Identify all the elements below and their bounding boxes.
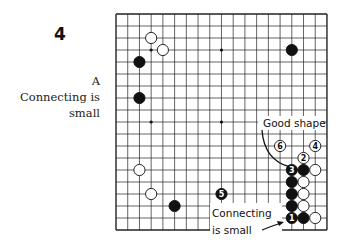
white-stone [298,188,309,199]
white-stone [310,212,321,223]
move-5-stone: 5 [216,188,227,199]
black-stone [134,56,145,67]
black-stone [286,176,297,187]
black-stone [286,44,297,55]
go-board: Good shape Connecting is small 123456 [0,0,345,245]
move-1-stone: 1 [286,212,297,223]
black-stone [134,92,145,103]
white-stone [134,164,145,175]
black-stone [298,164,309,175]
black-stone [298,212,309,223]
move-number: 1 [289,214,295,223]
white-stone [157,44,168,55]
white-stone [146,188,157,199]
good-shape-label: Good shape [263,117,326,129]
move-2-stone: 2 [298,152,309,163]
connecting-label-line-2: is small [212,224,252,236]
white-stone [310,164,321,175]
white-stone [146,32,157,43]
move-4-stone: 4 [310,140,321,151]
star-point [150,120,153,123]
star-point [220,48,223,51]
move-6-stone: 6 [274,140,285,151]
connecting-label-line-1: Connecting [212,207,272,219]
move-number: 3 [289,166,295,175]
move-number: 6 [277,142,283,151]
white-stone [298,176,309,187]
star-point [150,48,153,51]
move-number: 4 [312,142,318,151]
move-number: 2 [301,154,307,163]
black-stone [286,188,297,199]
move-number: 5 [219,190,225,199]
star-point [220,120,223,123]
black-stone [286,200,297,211]
move-3-stone: 3 [286,164,297,175]
black-stone [169,200,180,211]
white-stone [298,200,309,211]
